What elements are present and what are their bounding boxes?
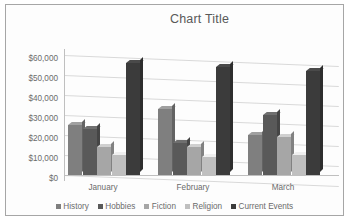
y-axis-tick-label: $20,000 xyxy=(6,134,58,143)
y-axis-tick-label: $0 xyxy=(6,174,58,183)
y-axis: $0$10,000$20,000$30,000$40,000$50,000$60… xyxy=(5,5,58,216)
bar[interactable] xyxy=(158,109,172,175)
legend-swatch-icon xyxy=(185,204,190,209)
plot-area: $0$10,000$20,000$30,000$40,000$50,000$60… xyxy=(6,5,344,216)
x-axis-tick-label: January xyxy=(56,183,150,192)
bar[interactable] xyxy=(263,115,277,175)
bar[interactable] xyxy=(112,155,126,175)
bar-face xyxy=(202,157,216,175)
bar-face xyxy=(277,137,291,175)
bar-face xyxy=(248,135,262,175)
legend-label: Fiction xyxy=(152,202,176,211)
y-axis-tick-label: $30,000 xyxy=(6,114,58,123)
bar[interactable] xyxy=(97,147,111,175)
legend-item-history[interactable]: History xyxy=(56,202,89,211)
legend-label: History xyxy=(63,202,88,211)
legend-label: Religion xyxy=(192,202,222,211)
x-axis-tick-label: February xyxy=(146,183,240,192)
gridline xyxy=(64,75,339,87)
bar-side xyxy=(320,65,323,172)
legend-item-current-events[interactable]: Current Events xyxy=(231,202,293,211)
legend-item-religion[interactable]: Religion xyxy=(185,202,222,211)
legend-item-hobbies[interactable]: Hobbies xyxy=(98,202,136,211)
legend-swatch-icon xyxy=(98,204,103,209)
bar-face xyxy=(173,143,187,175)
bar[interactable] xyxy=(83,129,97,175)
bar[interactable] xyxy=(292,155,306,175)
bar-face xyxy=(187,147,201,175)
legend-label: Current Events xyxy=(239,202,294,211)
bar[interactable] xyxy=(277,137,291,175)
bar[interactable] xyxy=(126,63,140,175)
bar[interactable] xyxy=(187,147,201,175)
gridline xyxy=(64,115,339,127)
bar-face xyxy=(126,63,140,175)
chart-container[interactable]: Chart Title $0$10,000$20,000$30,000$40,0… xyxy=(5,4,344,216)
bar-face xyxy=(263,115,277,175)
gridline xyxy=(64,55,339,67)
y-axis-tick-label: $40,000 xyxy=(6,94,58,103)
gridline xyxy=(64,95,339,107)
bar-face xyxy=(97,147,111,175)
bar-face xyxy=(112,155,126,175)
bar-face xyxy=(68,125,82,175)
bar[interactable] xyxy=(173,143,187,175)
x-axis-tick-label: March xyxy=(236,183,330,192)
legend-swatch-icon xyxy=(56,204,61,209)
bar-face xyxy=(158,109,172,175)
bar[interactable] xyxy=(202,157,216,175)
y-axis-tick-label: $60,000 xyxy=(6,54,58,63)
legend-swatch-icon xyxy=(231,204,236,209)
bar[interactable] xyxy=(216,67,230,175)
bar-face xyxy=(292,155,306,175)
bar[interactable] xyxy=(248,135,262,175)
y-axis-tick-label: $10,000 xyxy=(6,154,58,163)
bar[interactable] xyxy=(68,125,82,175)
y-axis-line xyxy=(64,49,65,181)
bar-side xyxy=(230,61,233,172)
chart-legend[interactable]: HistoryHobbiesFictionReligionCurrent Eve… xyxy=(6,202,343,211)
bar[interactable] xyxy=(306,71,320,175)
bar-face xyxy=(83,129,97,175)
legend-swatch-icon xyxy=(144,204,149,209)
bar-face xyxy=(306,71,320,175)
legend-item-fiction[interactable]: Fiction xyxy=(144,202,176,211)
y-axis-tick-label: $50,000 xyxy=(6,74,58,83)
bar-face xyxy=(216,67,230,175)
bar-side xyxy=(140,57,143,172)
x-axis-line xyxy=(64,175,339,176)
legend-label: Hobbies xyxy=(105,202,135,211)
